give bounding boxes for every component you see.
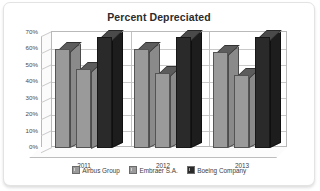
y-tick-label-20: 20% <box>12 110 38 117</box>
bar-2012-embraer-sa[interactable] <box>155 73 170 148</box>
chart-title: Percent Depreciated <box>4 11 314 23</box>
plot-area: 70% 60% 50% 40% 30% 20% 10% 0% <box>22 29 302 159</box>
legend-swatch-icon-boeing <box>187 166 195 174</box>
bar-2013-airbus-group[interactable] <box>213 52 228 148</box>
category-separator-2 <box>209 32 210 146</box>
legend-item-airbus-group[interactable]: Airbus Group <box>72 166 120 174</box>
category-separator-1 <box>131 32 132 146</box>
bar-2012-boeing-company[interactable] <box>176 37 191 148</box>
y-tick-label-0: 0% <box>12 143 38 150</box>
bar-side <box>270 32 281 148</box>
bar-face <box>176 37 191 148</box>
y-tick-label-50: 50% <box>12 61 38 68</box>
axis-floor <box>29 147 288 158</box>
y-tick-label-40: 40% <box>12 77 38 84</box>
bar-face <box>134 49 149 148</box>
chart-legend: Airbus Group Embraer S.A. Boeing Company <box>4 166 314 174</box>
bar-face <box>97 37 112 148</box>
bar-2013-embraer-sa[interactable] <box>234 75 249 148</box>
y-tick-label-60: 60% <box>12 44 38 51</box>
bar-side <box>112 32 123 148</box>
bar-side <box>191 32 202 148</box>
bar-2011-airbus-group[interactable] <box>55 49 70 148</box>
bar-face <box>155 73 170 148</box>
legend-swatch-icon-airbus <box>72 166 80 174</box>
legend-item-embraer-sa[interactable]: Embraer S.A. <box>129 166 178 174</box>
chart-card: Percent Depreciated 70% 60% 50% 40% 30% … <box>3 2 315 186</box>
bar-2012-airbus-group[interactable] <box>134 49 149 148</box>
y-tick-label-70: 70% <box>12 28 38 35</box>
legend-swatch-icon-embraer <box>129 166 137 174</box>
gridline-60 <box>52 49 286 50</box>
y-tick-label-10: 10% <box>12 127 38 134</box>
legend-label-airbus: Airbus Group <box>82 167 120 174</box>
bar-face <box>213 52 228 148</box>
bar-face <box>234 75 249 148</box>
bar-2011-embraer-sa[interactable] <box>76 69 91 149</box>
y-tick-label-30: 30% <box>12 94 38 101</box>
bar-2011-boeing-company[interactable] <box>97 37 112 148</box>
legend-item-boeing-company[interactable]: Boeing Company <box>187 166 247 174</box>
bar-face <box>76 69 91 149</box>
legend-label-boeing: Boeing Company <box>197 167 246 174</box>
bar-face <box>255 37 270 148</box>
bar-face <box>55 49 70 148</box>
bar-2013-boeing-company[interactable] <box>255 37 270 148</box>
legend-label-embraer: Embraer S.A. <box>139 167 177 174</box>
